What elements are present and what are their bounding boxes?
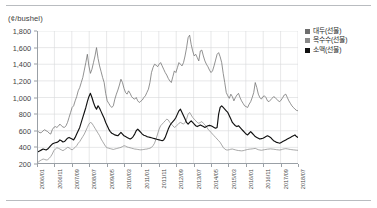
x-axis-tick-label: 2017/09	[283, 169, 289, 189]
x-axis-tick-mark	[37, 164, 38, 167]
x-axis-tick-mark	[194, 164, 195, 167]
x-axis-tick-label: 2014/05	[213, 169, 219, 189]
x-axis-tick-label: 2016/11	[265, 169, 271, 189]
legend-swatch-icon	[305, 38, 310, 43]
y-axis-tick-label: 1,400	[13, 60, 31, 69]
x-axis: 2006/012006/112007/092008/072009/052010/…	[37, 164, 298, 204]
x-axis-tick-mark	[298, 164, 299, 167]
x-axis-tick-label: 2013/07	[196, 169, 202, 189]
top-divider-rule	[6, 5, 371, 6]
x-axis-tick-label: 2016/01	[248, 169, 254, 189]
x-axis-tick-label: 2011/01	[144, 169, 150, 189]
x-axis-tick-label: 2008/07	[91, 169, 97, 189]
legend-label: 대두(선물)	[313, 28, 342, 35]
x-axis-tick-mark	[89, 164, 90, 167]
y-axis-tick-label: 1,800	[13, 27, 31, 36]
legend-swatch-icon	[305, 29, 310, 34]
chart-legend: 대두(선물)옥수수(선물)소맥(선물)	[305, 28, 348, 54]
x-axis-tick-mark	[72, 164, 73, 167]
x-axis-tick-mark	[176, 164, 177, 167]
legend-label: 옥수수(선물)	[313, 37, 348, 44]
x-axis-tick-mark	[107, 164, 108, 167]
x-axis-tick-label: 2018/07	[300, 169, 306, 189]
x-axis-tick-mark	[228, 164, 229, 167]
y-axis-tick-label: 400	[19, 143, 31, 152]
legend-item[interactable]: 대두(선물)	[305, 28, 348, 35]
y-axis-tick-label: 1,600	[13, 43, 31, 52]
x-axis-tick-mark	[54, 164, 55, 167]
x-axis-tick-label: 2011/11	[161, 169, 167, 188]
x-axis-tick-mark	[124, 164, 125, 167]
x-axis-tick-label: 2010/03	[126, 169, 132, 189]
y-axis-tick-label: 200	[19, 160, 31, 169]
x-axis-tick-mark	[263, 164, 264, 167]
x-axis-tick-label: 2015/03	[231, 169, 237, 189]
x-axis-tick-label: 2006/01	[39, 169, 45, 189]
legend-swatch-icon	[305, 48, 310, 53]
y-axis-unit-label: (¢/bushel)	[8, 14, 43, 23]
chart-figure: (¢/bushel) 1,8001,6001,4001,2001,0008006…	[0, 0, 377, 208]
plot-frame	[37, 31, 298, 164]
y-axis-tick-label: 1,000	[13, 93, 31, 102]
x-axis-tick-mark	[281, 164, 282, 167]
legend-label: 소맥(선물)	[313, 47, 342, 54]
legend-item[interactable]: 옥수수(선물)	[305, 37, 348, 44]
x-axis-tick-mark	[159, 164, 160, 167]
y-axis: 1,8001,6001,4001,2001,000800600400200	[0, 31, 37, 164]
x-axis-tick-mark	[141, 164, 142, 167]
y-axis-tick-label: 600	[19, 126, 31, 135]
y-axis-tick-label: 800	[19, 110, 31, 119]
x-axis-tick-mark	[246, 164, 247, 167]
x-axis-tick-label: 2012/09	[178, 169, 184, 189]
x-axis-tick-label: 2006/11	[57, 169, 63, 189]
y-axis-tick-label: 1,200	[13, 76, 31, 85]
x-axis-tick-label: 2009/05	[109, 169, 115, 189]
x-axis-tick-label: 2007/09	[74, 169, 80, 189]
plot-area	[37, 31, 298, 164]
legend-item[interactable]: 소맥(선물)	[305, 47, 348, 54]
x-axis-tick-mark	[211, 164, 212, 167]
